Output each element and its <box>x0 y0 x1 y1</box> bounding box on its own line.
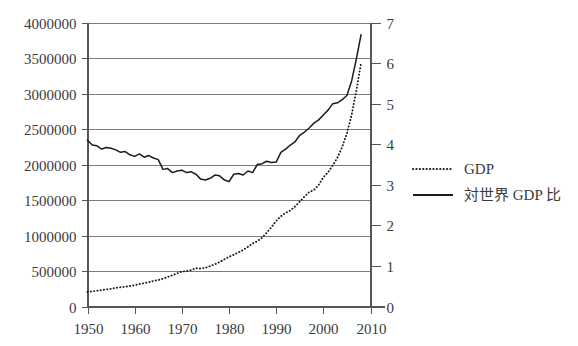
left-tick-label: 500000 <box>32 264 77 280</box>
left-tick-label: 4000000 <box>24 16 77 32</box>
chart-container: 0500000100000015000002000000250000030000… <box>0 0 578 346</box>
x-tick-label: 1950 <box>74 321 104 337</box>
left-axis-tick-labels: 0500000100000015000002000000250000030000… <box>24 16 77 316</box>
right-tick-label: 1 <box>387 259 395 275</box>
x-tick-label: 1970 <box>168 321 198 337</box>
x-tick-label: 1990 <box>262 321 292 337</box>
right-tick-label: 2 <box>387 218 395 234</box>
right-tick-label: 5 <box>387 97 395 113</box>
x-tick-label: 1960 <box>121 321 151 337</box>
left-tick-label: 1500000 <box>24 193 77 209</box>
legend-label-world-gdp-ratio: 対世界 GDP 比 <box>464 187 561 203</box>
left-tick-label: 1000000 <box>24 229 77 245</box>
right-tick-label: 7 <box>387 16 395 32</box>
right-tick-label: 6 <box>387 56 395 72</box>
left-tick-label: 0 <box>69 300 77 316</box>
x-tick-label: 2010 <box>357 321 387 337</box>
left-tick-label: 3500000 <box>24 51 77 67</box>
x-tick-label: 1980 <box>215 321 245 337</box>
right-tick-label: 4 <box>387 137 395 153</box>
left-tick-label: 2000000 <box>24 158 77 174</box>
x-tick-label: 2000 <box>309 321 339 337</box>
right-tick-label: 0 <box>387 300 395 316</box>
legend-label-gdp: GDP <box>464 161 494 177</box>
chart-svg: 0500000100000015000002000000250000030000… <box>0 0 578 346</box>
right-tick-label: 3 <box>387 178 395 194</box>
left-tick-label: 2500000 <box>24 122 77 138</box>
left-tick-label: 3000000 <box>24 87 77 103</box>
